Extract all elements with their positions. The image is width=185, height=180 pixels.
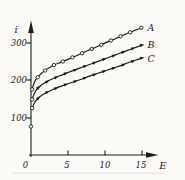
x-axis-arrowhead: [146, 152, 159, 158]
marker-circle-C: [30, 106, 33, 109]
marker-circle-A: [36, 76, 39, 79]
marker-triangle-B: [54, 75, 59, 80]
marker-circle-A: [43, 69, 46, 72]
marker-circle-B: [30, 98, 33, 101]
curve-label-A: A: [147, 22, 155, 33]
marker-triangle-B: [140, 43, 145, 47]
marker-circle-A: [52, 63, 55, 66]
marker-triangle-B: [73, 67, 78, 71]
marker-circle-A: [61, 60, 64, 63]
marker-triangle-B: [121, 50, 126, 54]
x-axis: [29, 151, 150, 156]
figure: i E 300 200 100 0 5 10 15 A B C: [0, 0, 185, 180]
marker-circle-A: [109, 39, 112, 42]
marker-circle-A: [30, 88, 33, 91]
marker-triangle-B: [92, 60, 97, 64]
x-tick-label-15: 15: [136, 160, 147, 170]
marker-circle-A: [140, 26, 143, 29]
x-tick-label-5: 5: [64, 160, 69, 170]
y-tick-label-200: 200: [10, 75, 28, 85]
marker-triangle-B: [102, 57, 107, 61]
marker-circle-A: [119, 35, 122, 38]
marker-triangle-C: [83, 75, 88, 79]
marker-triangle-C: [121, 62, 126, 66]
scan-streak: [12, 173, 164, 175]
marker-triangle-C: [45, 90, 50, 95]
curve-label-B: B: [147, 39, 155, 50]
marker-circle-A: [129, 31, 132, 34]
marker-triangle-B: [112, 53, 117, 57]
curves: [29, 26, 144, 128]
x-tick-label-0: 0: [23, 160, 29, 170]
y-tick-label-100: 100: [11, 113, 28, 123]
marker-triangle-C: [54, 86, 59, 91]
y-axis: [27, 30, 32, 157]
marker-circle-A: [100, 43, 103, 46]
marker-triangle-B: [64, 71, 69, 76]
y-axis-label: i: [14, 24, 17, 35]
y-axis-arrowhead: [28, 21, 34, 34]
x-tick-label-10: 10: [100, 160, 111, 170]
isolated-axis-point: [29, 125, 32, 128]
marker-circle-A: [80, 52, 83, 55]
marker-triangle-B: [131, 46, 136, 50]
marker-triangle-C: [140, 56, 145, 60]
polarization-chart: i E 300 200 100 0 5 10 15 A B C: [0, 0, 185, 180]
marker-triangle-B: [83, 64, 88, 68]
marker-circle-A: [71, 56, 74, 59]
curve-label-C: C: [148, 53, 156, 64]
x-axis-label: E: [158, 160, 167, 171]
marker-circle-A: [90, 47, 93, 50]
y-tick-label-300: 300: [11, 38, 28, 48]
